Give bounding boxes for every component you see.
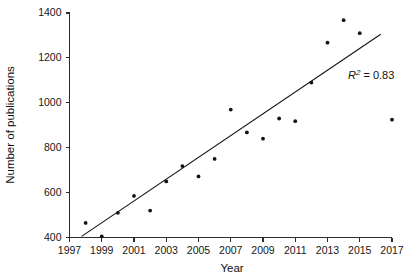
data-point xyxy=(390,118,394,122)
x-tick-label: 2007 xyxy=(219,244,243,256)
y-axis-title: Number of publications xyxy=(4,66,16,184)
x-tick-label: 2009 xyxy=(251,244,275,256)
r-squared-annotation: R2 = 0.83 xyxy=(348,68,394,81)
data-point xyxy=(277,117,281,121)
y-tick-label: 1400 xyxy=(38,6,62,18)
data-point xyxy=(213,157,217,161)
data-point xyxy=(358,31,362,35)
x-tick-label: 2011 xyxy=(284,244,307,256)
y-tick-label: 800 xyxy=(44,141,62,153)
x-tick-label: 1997 xyxy=(58,244,82,256)
data-point xyxy=(148,209,152,213)
data-point xyxy=(116,211,120,215)
data-point xyxy=(309,81,313,85)
data-point xyxy=(326,41,330,45)
scatter-chart: 400600800100012001400 199719992001200320… xyxy=(0,0,416,278)
x-tick-label: 2005 xyxy=(187,244,211,256)
y-tick-label: 1000 xyxy=(38,96,62,108)
r-symbol: R xyxy=(348,69,356,81)
x-tick-label: 1999 xyxy=(90,244,114,256)
data-point xyxy=(261,137,265,141)
data-point xyxy=(84,221,88,225)
y-tick-label: 1200 xyxy=(38,51,62,63)
x-tick-label: 2001 xyxy=(122,244,146,256)
data-point xyxy=(164,179,168,183)
y-tick-label: 400 xyxy=(44,231,62,243)
chart-background xyxy=(0,0,416,278)
data-point xyxy=(100,234,104,238)
x-tick-label: 2017 xyxy=(380,244,404,256)
data-point xyxy=(132,194,136,198)
data-point xyxy=(245,131,249,135)
data-point xyxy=(197,175,201,179)
x-tick-label: 2013 xyxy=(316,244,340,256)
y-tick-label: 600 xyxy=(44,186,62,198)
data-point xyxy=(229,108,233,112)
data-point xyxy=(342,18,346,22)
x-tick-label: 2003 xyxy=(155,244,179,256)
x-axis-title: Year xyxy=(220,262,243,274)
plot-canvas: 400600800100012001400 199719992001200320… xyxy=(0,0,416,278)
x-tick-label: 2015 xyxy=(348,244,372,256)
r-equals-value: = 0.83 xyxy=(360,69,394,81)
data-point xyxy=(293,119,297,123)
data-point xyxy=(180,164,184,168)
